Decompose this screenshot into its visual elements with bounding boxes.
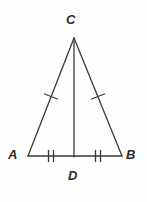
vertex-label-B: B — [126, 148, 135, 161]
vertex-label-D: D — [68, 169, 77, 182]
vertex-label-A: A — [8, 148, 17, 161]
geometry-figure: C A B D — [0, 0, 147, 202]
vertex-label-C: C — [66, 13, 75, 26]
